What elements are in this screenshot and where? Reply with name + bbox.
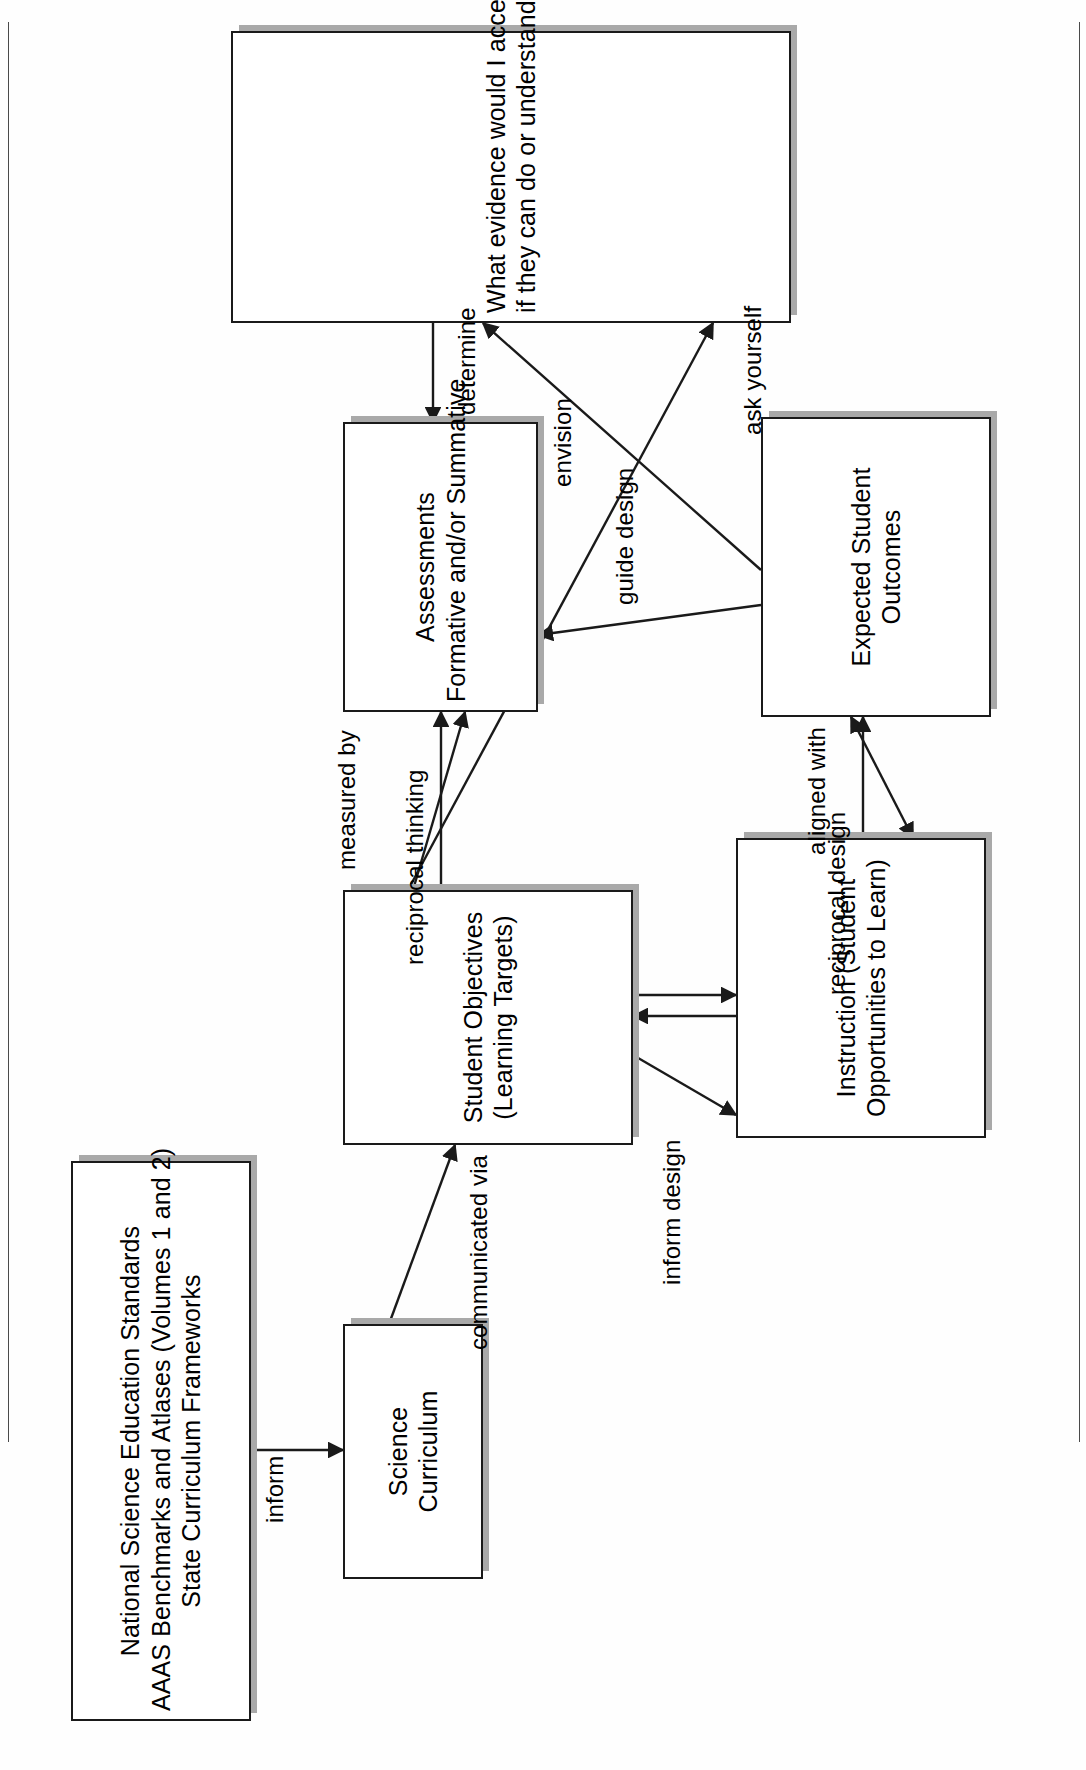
page-rule-right bbox=[1079, 22, 1080, 1442]
standards-box[interactable]: National Science Education Standards AAA… bbox=[71, 1161, 251, 1721]
science-curriculum-box[interactable]: Science Curriculum bbox=[343, 1324, 483, 1579]
curriculum-line-2: Curriculum bbox=[413, 1334, 444, 1569]
standards-line-2: AAAS Benchmarks and Atlases (Volumes 1 a… bbox=[146, 1171, 177, 1711]
instruction-box[interactable]: Instruction (Student Opportunities to Le… bbox=[736, 838, 986, 1138]
objectives-line-2: (Learning Targets) bbox=[488, 900, 519, 1135]
edge-label-ask-yourself: ask yourself bbox=[739, 306, 767, 435]
edge-label-reciprocal-design: reciprocal design bbox=[823, 812, 851, 995]
edge-label-communicated-via: communicated via bbox=[465, 1155, 493, 1350]
objectives-line-1: Student Objectives bbox=[458, 900, 489, 1135]
assessments-line-1: Assessments bbox=[410, 432, 441, 702]
scanned-page: National Science Education Standards AAA… bbox=[0, 0, 1086, 1770]
curriculum-line-1: Science bbox=[383, 1334, 414, 1569]
instruction-line-2: Opportunities to Learn) bbox=[861, 848, 892, 1128]
evidence-question-box[interactable]: What evidence would I accept from studen… bbox=[231, 31, 791, 323]
page-rule-left bbox=[8, 22, 9, 1442]
evidence-line-1: What evidence would I accept from studen… bbox=[481, 41, 512, 313]
edge-label-inform-design: inform design bbox=[658, 1140, 686, 1285]
edge-label-determine: determine bbox=[453, 307, 481, 415]
standards-line-1: National Science Education Standards bbox=[115, 1171, 146, 1711]
expected-student-outcomes-box[interactable]: Expected Student Outcomes bbox=[761, 417, 991, 717]
outcomes-line-2: Outcomes bbox=[876, 427, 907, 707]
edge-label-measured-by: measured by bbox=[333, 730, 361, 870]
edge-label-guide-design: guide design bbox=[611, 468, 639, 605]
diagram-canvas: National Science Education Standards AAA… bbox=[13, 15, 1073, 1755]
diagram-rotation-wrapper: National Science Education Standards AAA… bbox=[13, 15, 1073, 1755]
edge-inform-design bbox=[633, 1055, 736, 1115]
outcomes-line-1: Expected Student bbox=[846, 427, 877, 707]
standards-line-3: State Curriculum Frameworks bbox=[176, 1171, 207, 1711]
assessments-box[interactable]: Assessments Formative and/or Summative bbox=[343, 422, 538, 712]
edge-label-inform: inform bbox=[261, 1456, 289, 1523]
evidence-line-2: if they can do or understand these? bbox=[511, 41, 542, 313]
edge-guide-design bbox=[538, 605, 761, 635]
edge-label-reciprocal-thinking: reciprocal thinking bbox=[401, 770, 429, 965]
edge-aligned-with bbox=[851, 717, 913, 838]
edge-communicated-via bbox=[389, 1145, 455, 1324]
assessments-line-2: Formative and/or Summative bbox=[441, 432, 472, 702]
student-objectives-box[interactable]: Student Objectives (Learning Targets) bbox=[343, 890, 633, 1145]
edge-label-envision: envision bbox=[549, 398, 577, 487]
